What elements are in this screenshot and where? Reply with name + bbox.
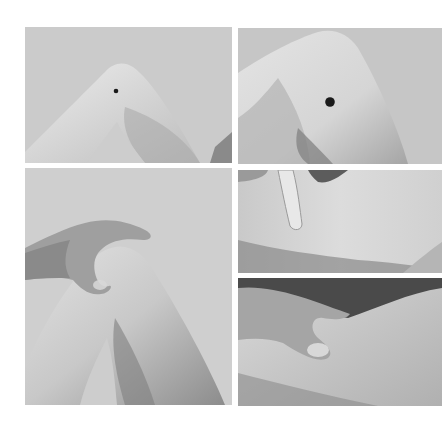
photo-panel-middle-right xyxy=(238,170,442,273)
photo-panel-middle-left xyxy=(25,168,232,405)
knee-photo-top-right xyxy=(238,28,442,164)
photo-panel-top-right xyxy=(238,28,442,164)
marker-dot xyxy=(325,97,335,107)
knee-photo-top-left xyxy=(25,27,232,163)
knee-photo-middle-left xyxy=(25,168,232,405)
knee-photo-bottom-right xyxy=(238,278,442,406)
marker-dot xyxy=(114,89,119,94)
photo-panel-top-left xyxy=(25,27,232,163)
photo-panel-bottom-right xyxy=(238,278,442,406)
knee-photo-middle-right xyxy=(238,170,442,273)
